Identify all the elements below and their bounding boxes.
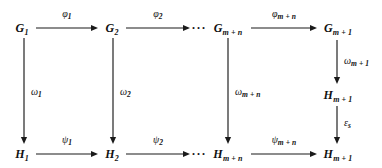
label-subscript: 1 xyxy=(68,12,72,21)
node-base: G xyxy=(324,21,333,35)
arrow-label-phimn: φm + n xyxy=(272,8,296,19)
node-subscript: m + 1 xyxy=(333,27,352,36)
node-base: G xyxy=(106,21,115,35)
label-subscript: 2 xyxy=(159,12,163,21)
arrow-head xyxy=(310,25,317,31)
arrow-head xyxy=(183,25,190,31)
node-hm1_mid: Hm + 1 xyxy=(324,88,353,103)
ellipsis-bottom-row: ··· xyxy=(191,147,206,162)
arrow-label-psi2: ψ2 xyxy=(153,134,163,145)
commutative-diagram: G1G2Gm + nGm + 1···H1H2Hm + nHm + 1···Hm… xyxy=(0,0,382,168)
arrow-label-phi1: φ1 xyxy=(62,8,71,19)
node-base: H xyxy=(15,147,25,161)
ellipsis-top-row: ··· xyxy=(191,21,206,36)
arrow-label-omegam1: ωm + 1 xyxy=(344,55,369,66)
node-subscript: m + n xyxy=(223,153,243,162)
node-h1: H1 xyxy=(15,147,29,162)
arrow-label-omega2: ω2 xyxy=(120,86,131,97)
label-subscript: s xyxy=(348,121,351,130)
node-h2: H2 xyxy=(105,147,119,162)
arrow-head xyxy=(110,137,116,144)
node-base: H xyxy=(324,88,334,102)
node-g2: G2 xyxy=(106,21,119,36)
arrow-head xyxy=(310,151,317,157)
node-subscript: m + n xyxy=(223,27,243,36)
arrow-label-omegamn: ωm + n xyxy=(235,86,261,97)
arrow-head xyxy=(183,151,190,157)
arrow-head xyxy=(334,77,340,84)
node-base: H xyxy=(213,147,223,161)
node-subscript: 2 xyxy=(115,153,119,162)
node-base: H xyxy=(105,147,115,161)
arrow-label-phi2: φ2 xyxy=(153,8,162,19)
arrow-head xyxy=(91,25,98,31)
label-subscript: 1 xyxy=(68,138,72,147)
label-base: φ xyxy=(272,8,278,19)
arrow-label-psimn: ψm + n xyxy=(272,134,297,145)
node-subscript: m + 1 xyxy=(333,153,352,162)
node-hmn: Hm + n xyxy=(213,147,242,162)
node-gm1: Gm + 1 xyxy=(324,21,352,36)
node-base: G xyxy=(214,21,223,35)
node-subscript: 1 xyxy=(25,153,29,162)
arrow-label-epsilon: εs xyxy=(344,117,351,128)
arrow-head xyxy=(334,137,340,144)
label-base: ω xyxy=(235,86,242,97)
node-subscript: 1 xyxy=(24,27,28,36)
label-base: ω xyxy=(120,86,127,97)
node-gmn: Gm + n xyxy=(214,21,243,36)
label-subscript: 2 xyxy=(127,90,131,99)
label-subscript: 2 xyxy=(159,138,163,147)
arrow-head xyxy=(91,151,98,157)
node-subscript: m + 1 xyxy=(333,94,352,103)
arrow-head xyxy=(225,137,231,144)
node-g1: G1 xyxy=(16,21,29,36)
node-base: H xyxy=(324,147,334,161)
label-subscript: m + n xyxy=(278,12,297,21)
label-subscript: m + n xyxy=(242,90,261,99)
node-hm1: Hm + 1 xyxy=(324,147,353,162)
arrow-label-psi1: ψ1 xyxy=(62,134,72,145)
label-subscript: m + n xyxy=(278,138,297,147)
label-subscript: 1 xyxy=(38,90,42,99)
node-base: G xyxy=(16,21,25,35)
node-subscript: 2 xyxy=(114,27,118,36)
label-base: ω xyxy=(344,55,351,66)
label-base: φ xyxy=(62,8,68,19)
label-base: ω xyxy=(31,86,38,97)
label-subscript: m + 1 xyxy=(351,59,369,68)
label-base: φ xyxy=(153,8,159,19)
arrow-head xyxy=(21,137,27,144)
arrow-label-omega1: ω1 xyxy=(31,86,42,97)
